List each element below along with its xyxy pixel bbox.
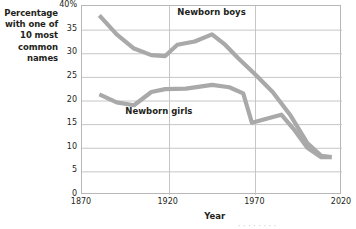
y-axis-label-line-5: names: [0, 53, 58, 64]
data-series: [99, 15, 331, 157]
y-tick-label-20: 20: [57, 96, 77, 104]
x-tick-label-1920: 1920: [148, 198, 188, 206]
chart-canvas: [82, 6, 342, 195]
y-tick-label-25: 25: [57, 72, 77, 80]
series-label-newborn-girls: Newborn girls: [125, 107, 192, 116]
y-tick-label-15: 15: [57, 119, 77, 127]
x-tick-label-2020: 2020: [321, 198, 356, 206]
y-tick-label-10: 10: [57, 143, 77, 151]
series-label-newborn-boys: Newborn boys: [177, 8, 245, 17]
y-axis-label-line-1: Percentage: [0, 8, 58, 19]
y-axis-label-line-3: 10 most: [0, 30, 58, 41]
y-tick-label-40: 40%: [53, 1, 77, 9]
y-axis-label-line-2: with one of: [0, 19, 58, 30]
y-tick-label-5: 5: [57, 166, 77, 174]
y-axis-label-line-4: common: [0, 42, 58, 53]
y-tick-label-30: 30: [57, 48, 77, 56]
cropped-text-row: · · · · · · · ·: [238, 223, 348, 229]
plot-area: Newborn boys Newborn girls: [81, 5, 341, 194]
series-line-newborn-girls: [99, 85, 331, 157]
y-axis-label: Percentage with one of 10 most common na…: [0, 8, 58, 64]
y-tick-label-35: 35: [57, 25, 77, 33]
x-tick-label-1970: 1970: [234, 198, 274, 206]
x-axis-label: Year: [204, 212, 225, 221]
x-tick-label-1870: 1870: [61, 198, 101, 206]
